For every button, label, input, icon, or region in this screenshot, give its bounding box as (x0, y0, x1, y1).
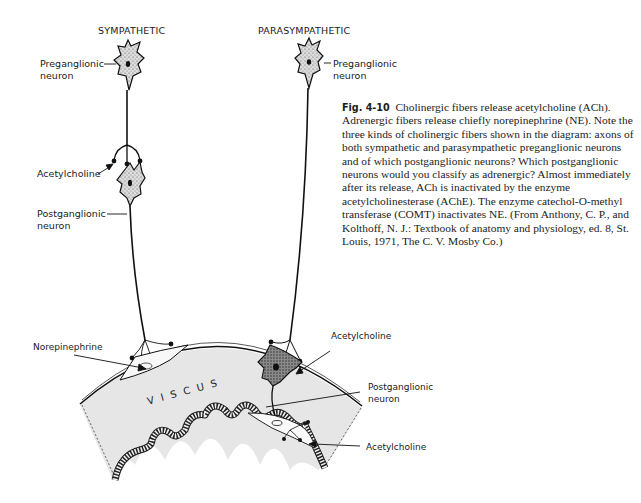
label-line: neuron (333, 70, 397, 82)
viscus-organ (80, 342, 362, 480)
parasympathetic-postganglionic-label: Postganglionic neuron (368, 381, 433, 405)
sympathetic-acetylcholine-label: Acetylcholine (37, 168, 101, 180)
label-line: neuron (40, 70, 104, 82)
figure-caption: Fig. 4-10 Cholinergic fibers release ace… (342, 101, 634, 248)
sympathetic-preganglionic-label: Preganglionic neuron (40, 58, 104, 82)
label-line: Postganglionic (368, 381, 433, 393)
sympathetic-header: SYMPATHETIC (98, 25, 165, 36)
label-line: Postganglionic (37, 208, 106, 220)
figure-number: Fig. 4-10 (342, 102, 390, 113)
sympathetic-preganglionic-neuron (112, 40, 144, 166)
label-line: neuron (37, 220, 106, 232)
parasympathetic-acetylcholine-upper-label: Acetylcholine (331, 330, 391, 342)
norepinephrine-label: Norepinephrine (33, 341, 103, 353)
parasympathetic-preganglionic-neuron (269, 38, 323, 363)
label-line: Preganglionic (40, 58, 104, 70)
label-line: neuron (368, 393, 433, 405)
parasympathetic-acetylcholine-lower-label: Acetylcholine (366, 441, 426, 453)
label-line: Preganglionic (333, 58, 397, 70)
caption-text: Cholinergic fibers release acetylcholine… (342, 101, 633, 247)
parasympathetic-preganglionic-label: Preganglionic neuron (333, 58, 397, 82)
sympathetic-postganglionic-neuron (117, 162, 188, 380)
sympathetic-postganglionic-label: Postganglionic neuron (37, 208, 106, 232)
parasympathetic-header: PARASYMPATHETIC (258, 25, 350, 36)
